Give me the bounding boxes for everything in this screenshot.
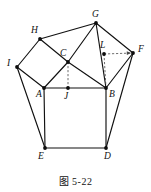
vertex-dot-I [15, 65, 19, 69]
vertex-label-J: J [64, 92, 68, 102]
edge-C-A [44, 62, 68, 88]
vertex-dot-C [66, 60, 70, 64]
vertex-dot-L [102, 52, 106, 56]
edge-F-D [106, 53, 133, 148]
edges-layer [17, 23, 133, 148]
edge-G-C [68, 23, 96, 62]
edge-A-E [44, 88, 45, 148]
vertex-label-A: A [36, 90, 42, 100]
vertex-dot-E [43, 146, 47, 150]
vertex-label-F: F [138, 45, 144, 55]
edge-H-G [40, 23, 96, 39]
vertex-dot-H [38, 37, 42, 41]
vertex-dot-G [94, 21, 98, 25]
vertex-dot-D [104, 146, 108, 150]
figure-caption: 图 5-22 [0, 173, 151, 188]
vertex-label-B: B [109, 90, 115, 100]
vertex-label-C: C [60, 49, 66, 59]
edge-F-B [106, 53, 133, 88]
geometry-canvas [0, 0, 151, 192]
guides-layer [68, 51, 133, 88]
vertex-label-H: H [31, 26, 38, 36]
vertex-label-G: G [92, 10, 99, 20]
vertex-label-D: D [104, 152, 111, 162]
vertex-dot-A [42, 86, 46, 90]
edge-I-H [17, 39, 40, 67]
vertex-dot-F [131, 51, 135, 55]
vertex-label-E: E [38, 152, 44, 162]
vertex-dot-B [104, 86, 108, 90]
geometry-figure: GHFLCIAJBED 图 5-22 [0, 0, 151, 192]
guide-L-F-arrow-icon [127, 51, 131, 55]
vertex-dot-J [66, 86, 70, 90]
vertex-label-L: L [100, 41, 105, 51]
edge-I-E [17, 67, 45, 148]
edge-C-B [68, 62, 106, 88]
vertex-label-I: I [7, 59, 10, 69]
